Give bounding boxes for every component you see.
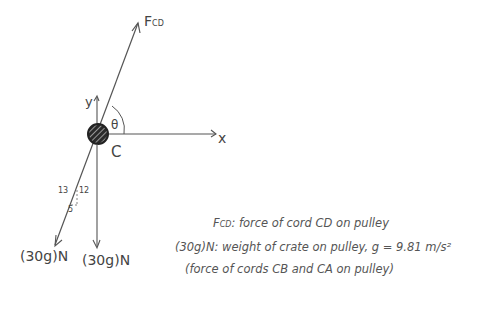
legend-row-weight: (30g)N: weight of crate on pulley, g = 9… xyxy=(175,236,451,258)
slope-hyp-label: 13 xyxy=(58,186,68,195)
pulley-c xyxy=(88,124,108,144)
force-fcd-label: FCD xyxy=(144,13,164,29)
fcd-main: F xyxy=(144,13,152,29)
point-c-label: C xyxy=(111,143,121,161)
legend-weight-text: : weight of crate on pulley, g = 9.81 m/… xyxy=(215,240,451,254)
slope-triangle xyxy=(71,190,77,205)
fcd-sub: CD xyxy=(152,19,164,28)
legend: FCD: force of cord CD on pulley (30g)N: … xyxy=(195,212,451,280)
slope-horizontal-label: 5 xyxy=(68,205,73,214)
legend-cords-text: (force of cords CB and CA on pulley) xyxy=(185,262,394,276)
legend-fcd-sub: CD xyxy=(220,220,232,229)
y-axis-label: y xyxy=(85,94,93,109)
legend-row-cords: (force of cords CB and CA on pulley) xyxy=(185,258,451,280)
legend-row-fcd: FCD: force of cord CD on pulley xyxy=(195,212,451,236)
legend-weight-symbol: (30g)N xyxy=(175,240,215,254)
weight-vertical-arrow xyxy=(93,144,100,248)
legend-fcd-text: : force of cord CD on pulley xyxy=(231,216,389,230)
angle-theta-label: θ xyxy=(111,118,118,132)
legend-fcd-symbol: F xyxy=(213,216,220,230)
weight-slanted-label: (30g)N xyxy=(20,248,68,264)
weight-vertical-label: (30g)N xyxy=(82,252,130,268)
slope-vertical-label: 12 xyxy=(79,186,89,195)
x-axis-label: x xyxy=(218,130,226,146)
